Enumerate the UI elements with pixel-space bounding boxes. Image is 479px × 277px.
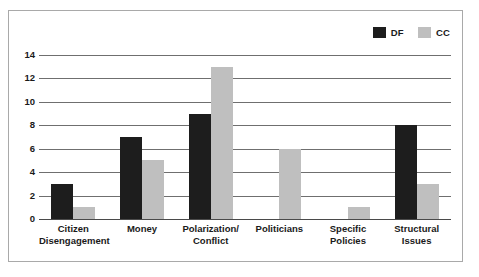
y-axis-tick-labels: 02468101214 bbox=[9, 55, 35, 219]
bar-group bbox=[108, 55, 177, 219]
x-axis-category-label: Money bbox=[108, 223, 177, 235]
legend-item-df: DF bbox=[373, 27, 404, 38]
bar-df[interactable] bbox=[189, 114, 211, 219]
bar-cc[interactable] bbox=[211, 67, 233, 219]
legend-item-cc: CC bbox=[418, 27, 450, 38]
bar-series-layer bbox=[39, 55, 451, 219]
y-axis-tick-label: 12 bbox=[24, 74, 35, 84]
legend-label-cc: CC bbox=[436, 28, 450, 38]
bar-df[interactable] bbox=[395, 125, 417, 219]
legend-label-df: DF bbox=[391, 28, 404, 38]
plot-area bbox=[39, 55, 451, 219]
bar-group bbox=[382, 55, 451, 219]
x-axis-category-label: SpecificPolicies bbox=[314, 223, 383, 246]
y-axis-tick-label: 4 bbox=[30, 167, 35, 177]
bar-group bbox=[245, 55, 314, 219]
bar-df[interactable] bbox=[120, 137, 142, 219]
bar-group bbox=[176, 55, 245, 219]
axis-baseline bbox=[39, 219, 451, 220]
bar-cc[interactable] bbox=[142, 160, 164, 219]
bar-df[interactable] bbox=[51, 184, 73, 219]
bar-cc[interactable] bbox=[279, 149, 301, 219]
bar-cc[interactable] bbox=[73, 207, 95, 219]
bar-group bbox=[39, 55, 108, 219]
y-axis-tick-label: 0 bbox=[30, 214, 35, 224]
y-axis-tick-label: 8 bbox=[30, 121, 35, 131]
y-axis-tick-label: 6 bbox=[30, 144, 35, 154]
y-axis-tick-label: 2 bbox=[30, 191, 35, 201]
bar-group bbox=[314, 55, 383, 219]
chart-container: DF CC 02468101214 CitizenDisengagementMo… bbox=[8, 10, 463, 262]
x-axis-category-labels: CitizenDisengagementMoneyPolarization/Co… bbox=[39, 223, 451, 263]
legend-swatch-cc bbox=[418, 27, 431, 38]
y-axis-tick-label: 10 bbox=[24, 97, 35, 107]
y-axis-tick-label: 14 bbox=[24, 50, 35, 60]
x-axis-category-label: Politicians bbox=[245, 223, 314, 235]
x-axis-category-label: Polarization/Conflict bbox=[176, 223, 245, 246]
x-axis-category-label: StructuralIssues bbox=[382, 223, 451, 246]
chart-legend: DF CC bbox=[373, 27, 450, 38]
legend-swatch-df bbox=[373, 27, 386, 38]
bar-cc[interactable] bbox=[348, 207, 370, 219]
x-axis-category-label: CitizenDisengagement bbox=[39, 223, 108, 246]
bar-cc[interactable] bbox=[417, 184, 439, 219]
